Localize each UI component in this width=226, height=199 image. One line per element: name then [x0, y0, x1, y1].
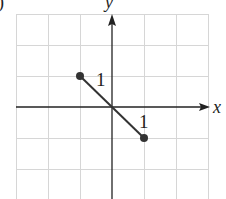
coordinate-plane: 1 1 x y ): [0, 0, 226, 199]
x-tick-label: 1: [139, 111, 149, 132]
endpoint-right: [140, 134, 148, 142]
endpoint-left: [76, 72, 84, 80]
x-axis-label: x: [212, 97, 221, 117]
y-axis-label: y: [103, 0, 113, 12]
axes: [16, 14, 210, 199]
panel-label: ): [0, 0, 4, 13]
y-tick-label: 1: [96, 69, 106, 90]
